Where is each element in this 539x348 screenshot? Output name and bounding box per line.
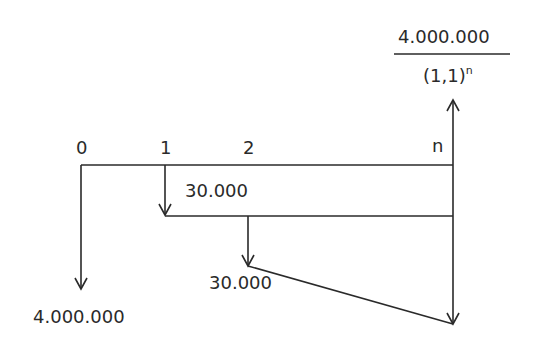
outflow-amount-0: 4.000.000 bbox=[33, 308, 125, 326]
denominator-base: (1,1) bbox=[423, 65, 466, 86]
period-label-n: n bbox=[432, 137, 443, 155]
outflow-amount-1: 30.000 bbox=[185, 182, 248, 200]
cash-flow-diagram bbox=[0, 0, 539, 348]
period-label-2: 2 bbox=[243, 139, 254, 157]
inflow-numerator: 4.000.000 bbox=[398, 28, 490, 46]
denominator-exponent: n bbox=[466, 64, 473, 77]
outflow-amount-2: 30.000 bbox=[209, 274, 272, 292]
diagonal-line bbox=[248, 266, 453, 324]
period-label-1: 1 bbox=[160, 139, 171, 157]
period-label-0: 0 bbox=[76, 139, 87, 157]
inflow-denominator: (1,1)n bbox=[423, 67, 473, 85]
